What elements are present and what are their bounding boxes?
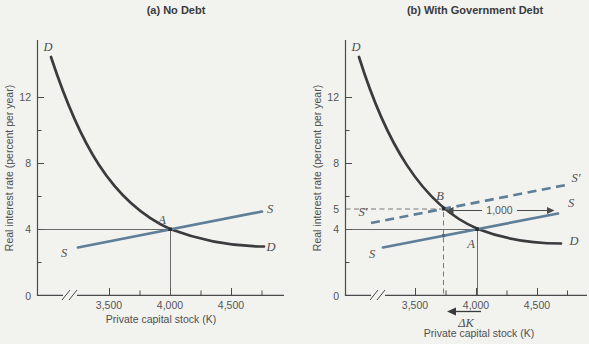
panel-a-x-axis-label: Private capital stock (K) <box>106 313 216 325</box>
panel-b-xtick-4000: 4,000 <box>463 299 489 311</box>
panel-a-x-ticks <box>110 288 263 295</box>
panel-b-ytick-4: 4 <box>333 223 339 235</box>
panel-b-xtick-3500: 3,500 <box>402 299 428 311</box>
figure-crowding-out-capital-stock: (a) No Debt D D S S A 12 8 4 0 3,500 <box>0 0 589 344</box>
panel-a-ytick-8: 8 <box>25 157 31 169</box>
panel-b-supply-left-label: S <box>369 247 376 261</box>
panel-b-x-ticks <box>416 288 568 295</box>
panel-b-point-b <box>442 207 446 211</box>
panel-b-x-axis-label: Private capital stock (K) <box>424 327 534 339</box>
panel-b-demand-curve <box>359 57 561 244</box>
panel-b-axis-break-icon <box>370 290 385 300</box>
panel-b-ytick-12: 12 <box>327 91 339 103</box>
panel-a-xtick-4500: 4,500 <box>218 299 244 311</box>
panel-b-demand-top-label: D <box>350 40 360 54</box>
panel-a-ytick-12: 12 <box>19 91 31 103</box>
panel-a-point-a-label: A <box>157 213 166 227</box>
panel-b-s-prime-right-label: S′ <box>572 171 581 185</box>
panel-b-ytick-5: 5 <box>333 203 339 215</box>
panel-a-equilibrium-point <box>168 227 172 231</box>
panel-b-title: (b) With Government Debt <box>407 4 544 16</box>
panel-a-xtick-4000: 4,000 <box>157 299 183 311</box>
panel-b-point-on-supply <box>442 234 445 237</box>
panel-a-xtick-3500: 3,500 <box>96 299 122 311</box>
panel-b-ytick-8: 8 <box>333 157 339 169</box>
panel-a-ytick-0: 0 <box>25 290 31 302</box>
panel-b-shift-amount-label: 1,000 <box>486 204 512 216</box>
panel-a-ytick-4: 4 <box>25 223 31 235</box>
panel-b-ytick-0: 0 <box>333 290 339 302</box>
panel-a: (a) No Debt D D S S A 12 8 4 0 3,500 <box>3 4 284 325</box>
panel-b-point-b-label: B <box>436 189 444 203</box>
panel-a-y-axis-label: Real interest rate (percent per year) <box>3 85 15 251</box>
panel-b-xtick-4500: 4,500 <box>524 299 550 311</box>
panel-a-title: (a) No Debt <box>147 4 206 16</box>
chart-canvas: (a) No Debt D D S S A 12 8 4 0 3,500 <box>0 0 589 344</box>
panel-b-s-prime-left-label: S′ <box>359 205 368 219</box>
panel-a-supply-left-label: S <box>61 246 68 260</box>
panel-b: (b) With Government Debt <box>311 4 587 339</box>
panel-a-demand-right-label: D <box>265 240 275 254</box>
panel-b-point-a <box>475 227 479 231</box>
panel-b-supply-right-label: S <box>568 196 575 210</box>
panel-b-demand-right-label: D <box>568 234 578 248</box>
right-arrowhead-icon <box>547 207 555 214</box>
panel-b-y-axis-label: Real interest rate (percent per year) <box>311 85 323 251</box>
panel-a-demand-top-label: D <box>42 40 52 54</box>
left-arrowhead-icon <box>447 308 456 316</box>
panel-a-supply-right-label: S <box>267 202 274 216</box>
panel-b-point-a-label: A <box>466 237 475 251</box>
panel-a-axis-break-icon <box>62 290 77 300</box>
